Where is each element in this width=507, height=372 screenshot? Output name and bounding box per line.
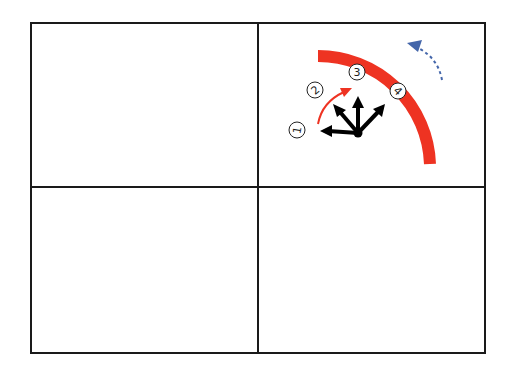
step-label-1: 1 [289,122,305,138]
step-label-3: 3 [349,64,365,80]
step-label-4: 4 [390,83,406,99]
svg-text:3: 3 [354,66,361,79]
pivot-dot [354,129,363,138]
grid [31,23,485,353]
diagram-canvas: 1 2 3 4 [0,0,507,372]
arrow-up-icon [352,96,364,108]
rotation-illustration: 1 2 3 4 [289,40,442,164]
arrow-left-icon [320,125,332,137]
blue-arrowhead-icon [407,40,422,52]
step-label-2: 2 [307,82,323,98]
red-arc [318,56,430,164]
dashed-blue-arrow [418,48,442,80]
